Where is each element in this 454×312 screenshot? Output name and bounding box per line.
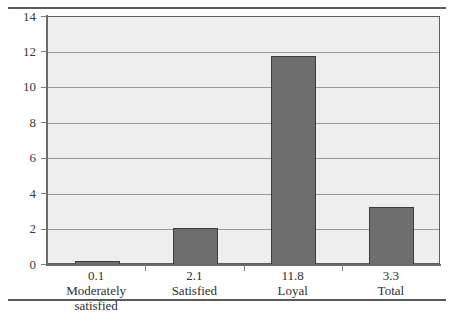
bar-chart-figure: 02468101214 0.1Moderately satisfied2.1Sa… bbox=[0, 0, 454, 312]
gridline bbox=[48, 87, 439, 88]
y-axis-tick-label: 4 bbox=[6, 187, 36, 200]
y-axis-tick-label: 2 bbox=[6, 222, 36, 235]
y-axis-line bbox=[46, 15, 48, 265]
x-axis-category-label: 11.8Loyal bbox=[244, 268, 342, 298]
x-axis-category-label: 2.1Satisfied bbox=[145, 268, 243, 298]
y-axis-tick-label: 6 bbox=[6, 151, 36, 164]
y-axis-tick bbox=[41, 122, 47, 123]
bar-category-name: Loyal bbox=[244, 283, 342, 298]
gridline bbox=[48, 158, 439, 159]
y-axis-tick bbox=[41, 16, 47, 17]
y-axis-tick-label: 14 bbox=[6, 10, 36, 23]
bar-value-label: 0.1 bbox=[47, 268, 145, 283]
bar bbox=[369, 207, 414, 265]
top-horizontal-rule bbox=[8, 7, 446, 9]
y-axis-tick bbox=[41, 87, 47, 88]
plot-area bbox=[47, 16, 440, 264]
y-axis-tick bbox=[41, 193, 47, 194]
x-axis-category-label: 3.3Total bbox=[342, 268, 440, 298]
y-axis-tick bbox=[41, 158, 47, 159]
bar-value-label: 2.1 bbox=[145, 268, 243, 283]
bar-value-label: 11.8 bbox=[244, 268, 342, 283]
gridline bbox=[48, 123, 439, 124]
bar-category-name: Moderately satisfied bbox=[47, 283, 145, 312]
y-axis-tick bbox=[41, 51, 47, 52]
x-axis-category-label: 0.1Moderately satisfied bbox=[47, 268, 145, 312]
bar-value-label: 3.3 bbox=[342, 268, 440, 283]
bar-category-name: Total bbox=[342, 283, 440, 298]
bar bbox=[173, 228, 218, 265]
y-axis-tick-label: 12 bbox=[6, 45, 36, 58]
y-axis-tick-label: 8 bbox=[6, 116, 36, 129]
bar bbox=[271, 56, 316, 265]
gridline bbox=[48, 52, 439, 53]
gridline bbox=[48, 194, 439, 195]
bar-category-name: Satisfied bbox=[145, 283, 243, 298]
y-axis-tick bbox=[41, 229, 47, 230]
y-axis-tick-label: 0 bbox=[6, 258, 36, 271]
y-axis-tick-label: 10 bbox=[6, 80, 36, 93]
